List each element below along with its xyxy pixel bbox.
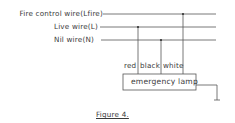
ground-lead xyxy=(196,85,217,100)
terminal-label-black: black xyxy=(140,62,160,70)
junction-dot-nil xyxy=(160,39,162,41)
terminal-label-red: red xyxy=(124,62,136,70)
figure-caption: Figure 4. xyxy=(96,111,129,119)
terminal-label-white: white xyxy=(163,62,184,70)
junction-dot-live xyxy=(137,26,139,28)
wiring-diagram xyxy=(0,0,235,123)
junction-dot-fire xyxy=(182,13,184,15)
emergency-lamp-label: emergency lamp xyxy=(131,78,198,86)
